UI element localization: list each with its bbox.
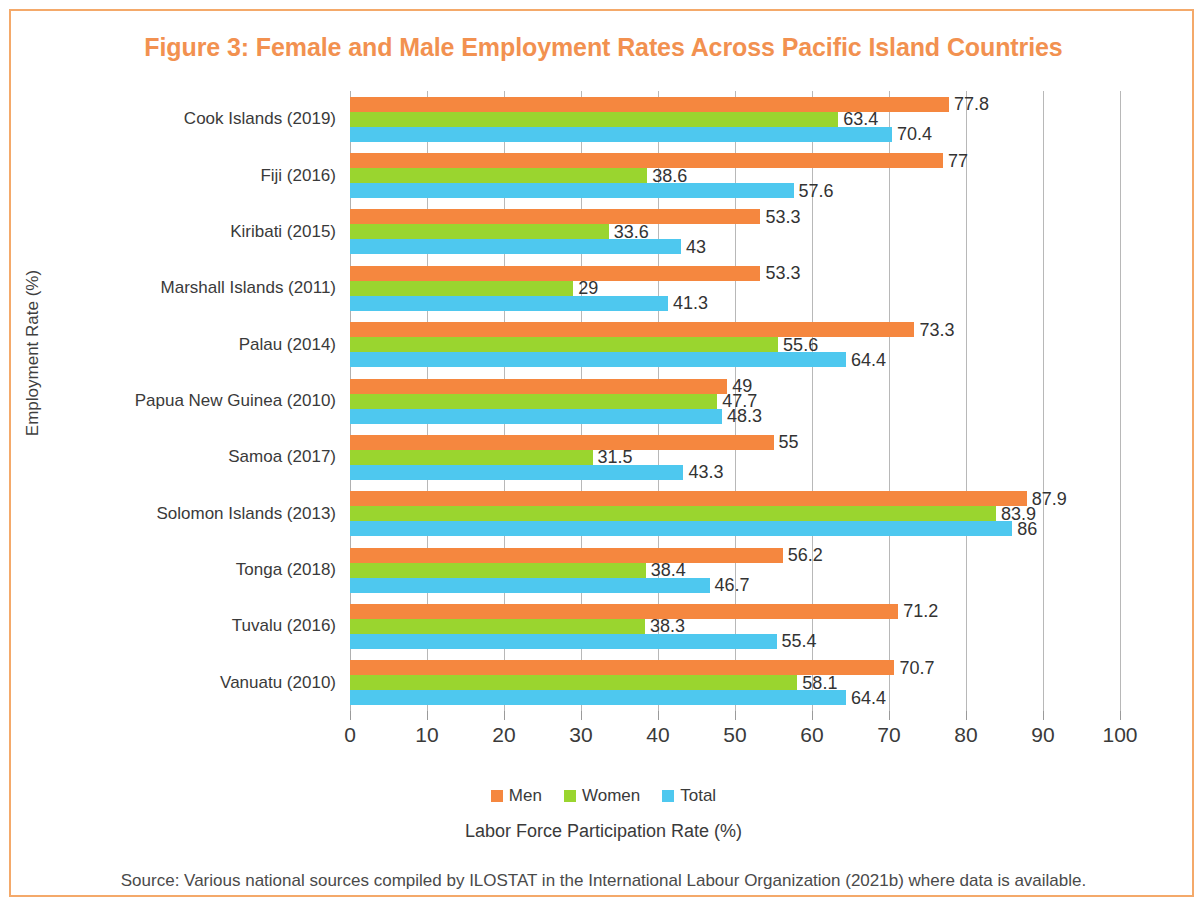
x-axis-tick-label: 40	[646, 723, 669, 747]
bar-value-label: 55	[779, 432, 799, 453]
bar-group: Marshall Islands (2011)53.32941.3	[350, 266, 1120, 311]
bar-group: Vanuatu (2010)70.758.164.4	[350, 660, 1120, 705]
bar-group: Papua New Guinea (2010)4947.748.3	[350, 379, 1120, 424]
figure-title: Figure 3: Female and Male Employment Rat…	[11, 33, 1196, 62]
x-axis-tick-label: 30	[569, 723, 592, 747]
bar-group: Kiribati (2015)53.333.643	[350, 209, 1120, 254]
bar-group: Tuvalu (2016)71.238.355.4	[350, 604, 1120, 649]
chart-area: Employment Rate (%) 01020304050607080901…	[11, 71, 1196, 771]
legend-swatch-icon	[491, 790, 503, 802]
figure-page: Figure 3: Female and Male Employment Rat…	[0, 0, 1203, 906]
bar-total: 70.4	[350, 127, 892, 142]
bar-total: 64.4	[350, 352, 846, 367]
x-axis-tick-label: 80	[954, 723, 977, 747]
bar-men: 77	[350, 153, 943, 168]
bar-value-label: 87.9	[1032, 488, 1067, 509]
bar-value-label: 41.3	[673, 293, 708, 314]
category-label: Solomon Islands (2013)	[156, 504, 336, 524]
bar-total: 55.4	[350, 634, 777, 649]
bar-men: 49	[350, 379, 727, 394]
bar-value-label: 57.6	[799, 180, 834, 201]
bar-men: 53.3	[350, 209, 760, 224]
x-axis-tick	[504, 711, 505, 720]
x-axis-tick-label: 50	[723, 723, 746, 747]
x-axis-tick	[1120, 711, 1121, 720]
bar-group: Fiji (2016)7738.657.6	[350, 153, 1120, 198]
bar-group: Solomon Islands (2013)87.983.986	[350, 491, 1120, 536]
legend-label: Men	[509, 786, 542, 806]
bar-women: 63.4	[350, 112, 838, 127]
bar-group: Samoa (2017)5531.543.3	[350, 435, 1120, 480]
bar-group: Cook Islands (2019)77.863.470.4	[350, 97, 1120, 142]
bar-total: 41.3	[350, 296, 668, 311]
bar-value-label: 64.4	[851, 687, 886, 708]
category-label: Papua New Guinea (2010)	[135, 391, 336, 411]
bar-value-label: 56.2	[788, 545, 823, 566]
bar-total: 43.3	[350, 465, 683, 480]
x-axis-tick-label: 70	[877, 723, 900, 747]
bar-value-label: 53.3	[765, 206, 800, 227]
legend-item-men[interactable]: Men	[491, 786, 542, 806]
bar-women: 33.6	[350, 224, 609, 239]
x-axis-tick	[735, 711, 736, 720]
x-axis-tick	[581, 711, 582, 720]
x-axis-tick	[1043, 711, 1044, 720]
x-axis-title: Labor Force Participation Rate (%)	[11, 821, 1196, 842]
bar-men: 56.2	[350, 548, 783, 563]
x-axis-tick	[966, 711, 967, 720]
plot-area: 0102030405060708090100Cook Islands (2019…	[350, 91, 1120, 711]
bar-total: 64.4	[350, 690, 846, 705]
chart-legend: MenWomenTotal	[11, 786, 1196, 806]
x-axis-tick-label: 20	[492, 723, 515, 747]
bar-women: 58.1	[350, 675, 797, 690]
bar-total: 48.3	[350, 409, 722, 424]
bar-men: 55	[350, 435, 774, 450]
x-axis-tick	[350, 711, 351, 720]
category-label: Samoa (2017)	[228, 447, 336, 467]
bar-value-label: 70.7	[899, 657, 934, 678]
category-label: Fiji (2016)	[260, 166, 336, 186]
x-axis-tick-label: 100	[1102, 723, 1137, 747]
bar-women: 83.9	[350, 506, 996, 521]
bar-value-label: 53.3	[765, 263, 800, 284]
bar-value-label: 77	[948, 150, 968, 171]
gridline	[1120, 91, 1121, 711]
x-axis-tick-label: 60	[800, 723, 823, 747]
bar-women: 38.3	[350, 619, 645, 634]
bar-women: 29	[350, 281, 573, 296]
x-axis-tick	[658, 711, 659, 720]
bar-total: 57.6	[350, 183, 794, 198]
bar-value-label: 77.8	[954, 94, 989, 115]
bar-value-label: 43.3	[688, 462, 723, 483]
legend-swatch-icon	[662, 790, 674, 802]
bar-women: 55.6	[350, 337, 778, 352]
bar-women: 47.7	[350, 394, 717, 409]
bar-total: 43	[350, 239, 681, 254]
legend-item-total[interactable]: Total	[662, 786, 716, 806]
bar-women: 31.5	[350, 450, 593, 465]
bar-men: 87.9	[350, 491, 1027, 506]
bar-value-label: 55.4	[782, 631, 817, 652]
category-label: Tuvalu (2016)	[232, 616, 336, 636]
bar-men: 73.3	[350, 322, 914, 337]
source-note: Source: Various national sources compile…	[11, 871, 1196, 891]
legend-label: Total	[680, 786, 716, 806]
bar-men: 53.3	[350, 266, 760, 281]
category-label: Marshall Islands (2011)	[161, 278, 336, 298]
bar-value-label: 64.4	[851, 349, 886, 370]
category-label: Tonga (2018)	[236, 560, 336, 580]
bar-total: 46.7	[350, 578, 710, 593]
x-axis-tick-label: 0	[344, 723, 356, 747]
bar-value-label: 86	[1017, 518, 1037, 539]
bar-women: 38.4	[350, 563, 646, 578]
category-label: Kiribati (2015)	[230, 222, 336, 242]
x-axis-tick	[889, 711, 890, 720]
legend-item-women[interactable]: Women	[564, 786, 640, 806]
x-axis-tick	[812, 711, 813, 720]
bar-value-label: 70.4	[897, 124, 932, 145]
bar-men: 71.2	[350, 604, 898, 619]
x-axis-tick-label: 10	[415, 723, 438, 747]
bar-group: Tonga (2018)56.238.446.7	[350, 548, 1120, 593]
bar-value-label: 71.2	[903, 601, 938, 622]
bar-value-label: 73.3	[919, 319, 954, 340]
